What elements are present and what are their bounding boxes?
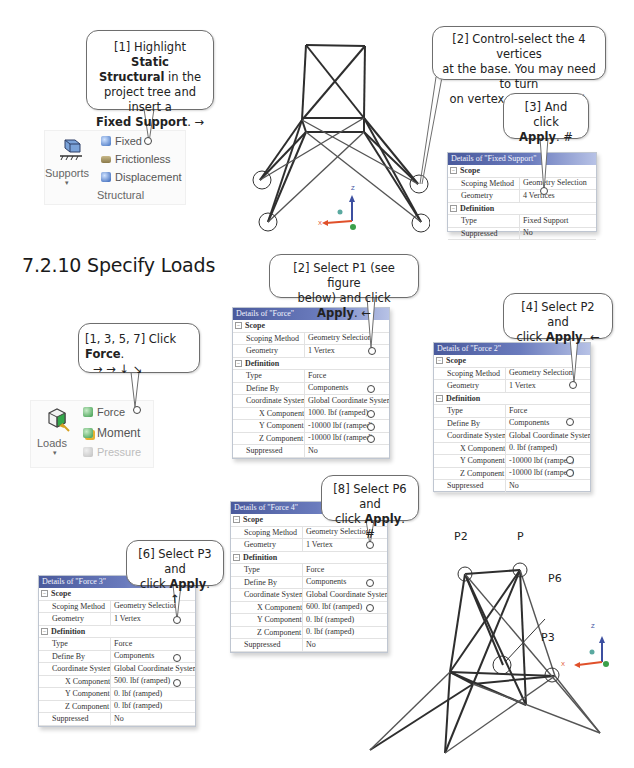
row-value[interactable]: 500. lbf (ramped) <box>111 675 195 687</box>
loads-button[interactable]: Loads ▾ <box>37 405 77 463</box>
callout-text: Apply <box>317 306 354 320</box>
row-type[interactable]: TypeForce <box>434 405 590 418</box>
row-type[interactable]: TypeForce <box>233 370 389 383</box>
row-coordinate-system[interactable]: Coordinate SystemGlobal Coordinate Syste… <box>231 589 387 602</box>
ribbon-item-force[interactable]: Force <box>83 406 125 418</box>
row-value[interactable]: 0. lbf (ramped) <box>506 442 590 454</box>
row-type[interactable]: TypeFixed Support <box>448 215 596 228</box>
row-y-component[interactable]: Y Component0. lbf (ramped) <box>231 614 387 627</box>
ribbon-item-moment[interactable]: Moment <box>83 426 140 440</box>
selection-marker <box>366 604 374 612</box>
callout-text: Apply <box>546 330 583 344</box>
group-definition[interactable]: −Definition <box>39 626 195 639</box>
row-y-component[interactable]: Y Component-10000 lbf (ramped) <box>233 420 389 433</box>
row-value[interactable]: 0. lbf (ramped) <box>111 688 195 700</box>
row-value[interactable]: Components <box>111 650 195 662</box>
row-value[interactable]: No <box>305 445 389 457</box>
ribbon-item-fixed[interactable]: Fixed <box>101 135 142 147</box>
supports-button[interactable]: Supports ▾ <box>51 135 91 193</box>
selection-marker <box>566 418 574 426</box>
row-value[interactable]: 0. lbf (ramped) <box>303 614 387 626</box>
row-value[interactable]: 600. lbf (ramped) <box>303 601 387 613</box>
row-type[interactable]: TypeForce <box>231 564 387 577</box>
row-suppressed[interactable]: SuppressedNo <box>39 713 195 726</box>
row-suppressed[interactable]: SuppressedNo <box>231 639 387 652</box>
collapse-icon[interactable]: − <box>41 628 48 635</box>
row-z-component[interactable]: Z Component0. lbf (ramped) <box>39 701 195 714</box>
row-key: Z Component <box>231 627 303 639</box>
row-coordinate-system[interactable]: Coordinate SystemGlobal Coordinate Syste… <box>434 430 590 443</box>
row-x-component[interactable]: X Component0. lbf (ramped) <box>434 443 590 456</box>
selection-marker <box>367 423 375 431</box>
group-definition[interactable]: −Definition <box>448 203 596 216</box>
dropdown-arrow-icon[interactable]: ▾ <box>65 179 69 187</box>
row-key: Coordinate System <box>231 589 303 601</box>
row-value[interactable]: 0. lbf (ramped) <box>303 626 387 638</box>
callout-text: [1, 3, 5, 7] Click <box>85 332 176 346</box>
group-definition[interactable]: −Definition <box>233 358 389 371</box>
row-coordinate-system[interactable]: Coordinate SystemGlobal Coordinate Syste… <box>39 663 195 676</box>
collapse-icon[interactable]: − <box>233 516 240 523</box>
row-value[interactable]: No <box>111 713 195 725</box>
row-y-component[interactable]: Y Component0. lbf (ramped) <box>39 688 195 701</box>
row-value[interactable]: No <box>520 227 596 239</box>
row-z-component[interactable]: Z Component-10000 lbf (ramped) <box>233 433 389 446</box>
row-suppressed[interactable]: SuppressedNo <box>448 228 596 241</box>
row-key: Geometry <box>434 380 506 392</box>
row-scoping-method[interactable]: Scoping MethodGeometry Selection <box>448 178 596 191</box>
row-x-component[interactable]: X Component500. lbf (ramped) <box>39 676 195 689</box>
row-value[interactable]: Global Coordinate System <box>111 663 195 675</box>
row-value[interactable]: -10000 lbf (ramped) <box>305 420 389 432</box>
row-value[interactable]: -10000 lbf (ramped) <box>506 455 590 467</box>
row-value[interactable]: Components <box>303 576 387 588</box>
row-define-by[interactable]: Define ByComponents <box>231 577 387 590</box>
row-value[interactable]: -10000 lbf (ramped) <box>305 432 389 444</box>
ribbon-item-pressure[interactable]: Pressure <box>83 446 141 458</box>
row-value[interactable]: 0. lbf (ramped) <box>111 700 195 712</box>
collapse-icon[interactable]: − <box>41 590 48 597</box>
row-value[interactable]: Components <box>305 382 389 394</box>
selection-marker <box>173 654 181 662</box>
callout-text: . → <box>187 115 204 129</box>
row-x-component[interactable]: X Component600. lbf (ramped) <box>231 602 387 615</box>
row-define-by[interactable]: Define ByComponents <box>39 651 195 664</box>
collapse-icon[interactable]: − <box>235 322 242 329</box>
ribbon-item-frictionless[interactable]: Frictionless <box>101 153 171 165</box>
supports-label: Supports <box>45 167 89 179</box>
row-suppressed[interactable]: SuppressedNo <box>434 480 590 493</box>
collapse-icon[interactable]: − <box>235 360 242 367</box>
row-x-component[interactable]: X Component1000. lbf (ramped) <box>233 408 389 421</box>
row-key: Scoping Method <box>233 333 305 345</box>
tower-model-view-fixed[interactable]: Z X <box>240 30 430 240</box>
collapse-icon[interactable]: − <box>436 395 443 402</box>
group-definition[interactable]: −Definition <box>434 393 590 406</box>
collapse-icon[interactable]: − <box>450 205 457 212</box>
row-value[interactable]: Global Coordinate System <box>305 395 389 407</box>
collapse-icon[interactable]: − <box>450 167 457 174</box>
row-coordinate-system[interactable]: Coordinate SystemGlobal Coordinate Syste… <box>233 395 389 408</box>
row-value[interactable]: Global Coordinate System <box>506 430 590 442</box>
row-suppressed[interactable]: SuppressedNo <box>233 445 389 458</box>
row-value[interactable]: 4 Vertices <box>520 190 596 202</box>
group-scope[interactable]: −Scope <box>448 165 596 178</box>
row-z-component[interactable]: Z Component0. lbf (ramped) <box>231 627 387 640</box>
row-define-by[interactable]: Define ByComponents <box>233 383 389 396</box>
row-type[interactable]: TypeForce <box>39 638 195 651</box>
ribbon-item-displacement[interactable]: Displacement <box>101 171 182 183</box>
row-key: Geometry <box>233 345 305 357</box>
collapse-icon[interactable]: − <box>233 554 240 561</box>
callout-text: [3] And click <box>525 100 567 129</box>
dropdown-arrow-icon[interactable]: ▾ <box>53 449 57 457</box>
row-geometry[interactable]: Geometry4 Vertices <box>448 190 596 203</box>
row-value[interactable]: 1000. lbf (ramped) <box>305 407 389 419</box>
callout-text: in the <box>164 70 201 84</box>
row-value[interactable]: No <box>303 639 387 651</box>
displacement-icon <box>101 172 111 182</box>
row-value[interactable]: No <box>506 480 590 492</box>
group-definition[interactable]: −Definition <box>231 552 387 565</box>
collapse-icon[interactable]: − <box>436 357 443 364</box>
row-value[interactable]: Geometry Selection <box>520 177 596 189</box>
row-value[interactable]: Components <box>506 417 590 429</box>
row-value[interactable]: -10000 lbf (ramped) <box>506 467 590 479</box>
row-value[interactable]: Global Coordinate System <box>303 589 387 601</box>
